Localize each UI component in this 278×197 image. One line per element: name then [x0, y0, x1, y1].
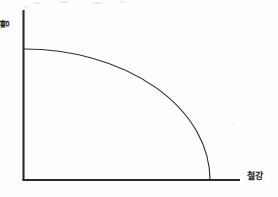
ppf-chart-screenshot: 빵 철강 [0, 0, 278, 197]
ppf-plot-area [0, 0, 278, 197]
ppf-curve [24, 49, 210, 180]
y-axis-label: 빵 [1, 20, 10, 28]
x-axis-label: 철강 [247, 172, 263, 181]
